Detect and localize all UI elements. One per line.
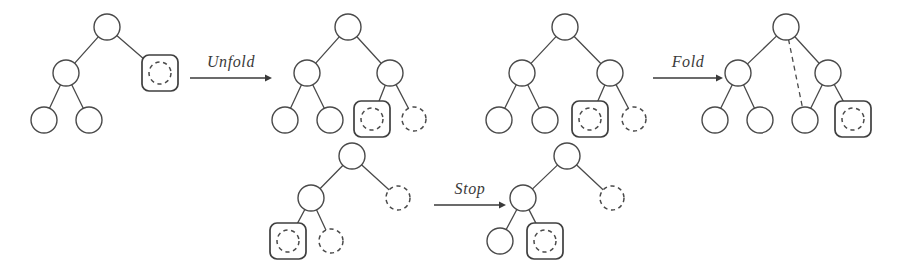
solid-edge bbox=[71, 84, 83, 109]
solid-node[interactable] bbox=[294, 60, 320, 86]
solid-edge bbox=[794, 36, 819, 64]
solid-edge bbox=[356, 36, 381, 64]
arrow-fold: Fold bbox=[653, 53, 723, 81]
dashed-edge bbox=[789, 39, 803, 108]
boxed-dashed-node[interactable] bbox=[835, 101, 871, 137]
dashed-circle-icon bbox=[149, 62, 171, 84]
arrows-layer: UnfoldFoldStop bbox=[190, 53, 723, 208]
arrow-stop: Stop bbox=[434, 180, 506, 208]
arrow-stop-label: Stop bbox=[455, 180, 486, 198]
tree-transformation-figure: UnfoldFoldStop bbox=[0, 0, 897, 280]
solid-node[interactable] bbox=[702, 107, 728, 133]
solid-edge bbox=[532, 165, 558, 190]
before-stop-tree-nodes bbox=[270, 143, 410, 259]
dashed-circle-icon bbox=[579, 108, 601, 130]
solid-node[interactable] bbox=[487, 228, 513, 254]
solid-node[interactable] bbox=[815, 60, 841, 86]
dashed-node[interactable] bbox=[600, 186, 624, 210]
solid-edge bbox=[506, 209, 517, 230]
solid-edge bbox=[315, 36, 339, 63]
solid-node[interactable] bbox=[532, 107, 558, 133]
boxed-dashed-node[interactable] bbox=[572, 101, 608, 137]
arrow-unfold-label: Unfold bbox=[207, 53, 255, 71]
arrow-head-icon bbox=[716, 75, 723, 82]
solid-node[interactable] bbox=[554, 143, 580, 169]
solid-node[interactable] bbox=[377, 60, 403, 86]
initial-tree-nodes bbox=[31, 14, 178, 133]
dashed-node[interactable] bbox=[402, 107, 426, 131]
solid-node[interactable] bbox=[317, 107, 343, 133]
solid-edge bbox=[396, 84, 409, 109]
solid-edge bbox=[116, 35, 146, 61]
solid-node[interactable] bbox=[747, 107, 773, 133]
solid-edge bbox=[504, 84, 516, 109]
solid-edge bbox=[74, 36, 98, 63]
dashed-node[interactable] bbox=[386, 186, 410, 210]
boxed-dashed-node[interactable] bbox=[527, 223, 563, 259]
solid-node[interactable] bbox=[597, 60, 623, 86]
dashed-node[interactable] bbox=[319, 229, 343, 253]
arrow-unfold: Unfold bbox=[190, 53, 272, 81]
solid-node[interactable] bbox=[335, 14, 361, 40]
solid-edge bbox=[810, 84, 822, 109]
dashed-circle-icon bbox=[842, 108, 864, 130]
solid-edge bbox=[527, 84, 539, 109]
solid-node[interactable] bbox=[725, 60, 751, 86]
dashed-node[interactable] bbox=[622, 107, 646, 131]
after-unfold-tree-nodes bbox=[272, 14, 426, 137]
solid-edge bbox=[747, 36, 777, 65]
solid-edge bbox=[743, 84, 754, 108]
after-stop-tree-nodes bbox=[487, 143, 624, 259]
after-fold-tree-nodes bbox=[702, 14, 871, 137]
boxed-dashed-node[interactable] bbox=[270, 223, 306, 259]
solid-node[interactable] bbox=[272, 107, 298, 133]
dashed-circle-icon bbox=[361, 108, 383, 130]
dashed-circle-icon bbox=[534, 230, 556, 252]
solid-node[interactable] bbox=[486, 107, 512, 133]
solid-node[interactable] bbox=[509, 60, 535, 86]
boxed-dashed-node[interactable] bbox=[142, 55, 178, 91]
solid-node[interactable] bbox=[94, 14, 120, 40]
solid-edge bbox=[720, 84, 732, 109]
solid-edge bbox=[49, 84, 60, 108]
solid-node[interactable] bbox=[773, 14, 799, 40]
solid-edge bbox=[576, 165, 603, 191]
solid-node[interactable] bbox=[792, 107, 818, 133]
solid-edge bbox=[574, 36, 602, 64]
solid-node[interactable] bbox=[31, 107, 57, 133]
solid-edge bbox=[316, 209, 326, 230]
solid-edge bbox=[320, 165, 344, 189]
boxed-dashed-node[interactable] bbox=[354, 101, 390, 137]
dashed-circle-icon bbox=[277, 230, 299, 252]
figure-canvas: UnfoldFoldStop bbox=[0, 0, 897, 280]
solid-edge bbox=[378, 85, 385, 103]
solid-edge bbox=[361, 164, 389, 190]
solid-edge bbox=[312, 84, 324, 109]
solid-node[interactable] bbox=[510, 185, 536, 211]
solid-node[interactable] bbox=[76, 107, 102, 133]
arrow-head-icon bbox=[265, 75, 272, 82]
arrow-fold-label: Fold bbox=[671, 53, 705, 70]
solid-edge bbox=[290, 84, 301, 108]
arrow-head-icon bbox=[499, 202, 506, 209]
before-fold-tree-nodes bbox=[486, 14, 646, 137]
solid-node[interactable] bbox=[298, 185, 324, 211]
solid-node[interactable] bbox=[339, 143, 365, 169]
solid-node[interactable] bbox=[552, 14, 578, 40]
nodes-layer bbox=[31, 14, 871, 259]
solid-edge bbox=[616, 84, 629, 109]
solid-node[interactable] bbox=[53, 60, 79, 86]
solid-edge bbox=[531, 36, 557, 64]
